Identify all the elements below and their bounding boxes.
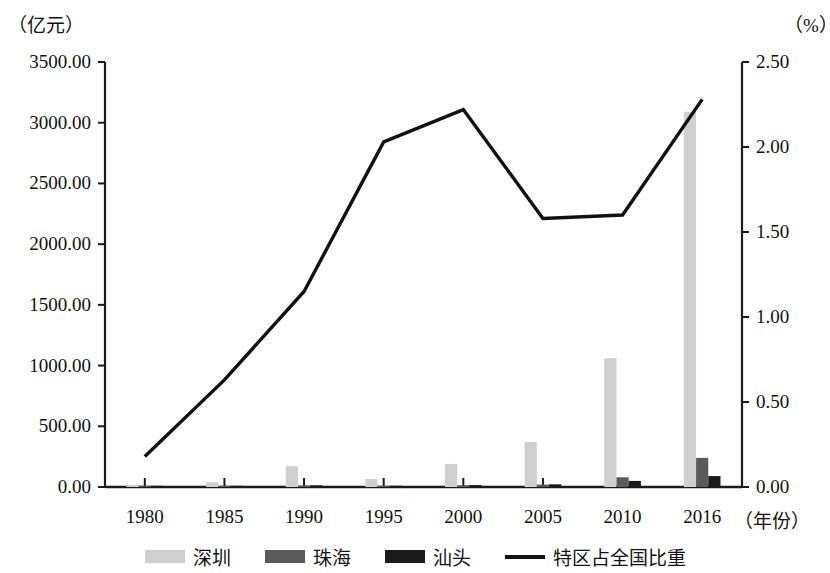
legend-label: 汕头 <box>433 543 471 570</box>
chart-container: （亿元） （%） 0.00500.001000.001500.002000.00… <box>0 0 830 573</box>
bar <box>708 476 720 487</box>
legend-label: 特区占全国比重 <box>553 543 686 570</box>
bar <box>629 481 641 487</box>
bar <box>525 442 537 487</box>
bar <box>365 479 377 487</box>
legend-item[interactable]: 汕头 <box>385 543 471 570</box>
bar <box>604 358 616 487</box>
bar <box>310 485 322 487</box>
bar <box>549 484 561 487</box>
legend-line-swatch <box>505 555 545 559</box>
bar <box>616 477 628 487</box>
bar <box>469 485 481 487</box>
legend-color-swatch <box>385 550 425 563</box>
bar <box>457 485 469 487</box>
legend-item[interactable]: 特区占全国比重 <box>505 543 686 570</box>
legend-label: 珠海 <box>313 543 351 570</box>
bar <box>298 486 310 487</box>
bar <box>218 486 230 487</box>
legend-item[interactable]: 珠海 <box>265 543 351 570</box>
legend-label: 深圳 <box>193 543 231 570</box>
plot-area <box>0 0 830 573</box>
bar <box>445 464 457 487</box>
bar <box>537 485 549 487</box>
bar <box>206 482 218 487</box>
legend-item[interactable]: 深圳 <box>145 543 231 570</box>
bar <box>286 466 298 487</box>
bar <box>378 486 390 487</box>
line-series <box>145 99 702 456</box>
bar <box>231 486 243 487</box>
bar <box>139 486 151 487</box>
bar <box>696 458 708 487</box>
legend-color-swatch <box>265 550 305 563</box>
bar <box>126 486 138 487</box>
bar <box>390 486 402 487</box>
legend-color-swatch <box>145 550 185 563</box>
chart-legend: 深圳珠海汕头特区占全国比重 <box>0 543 830 570</box>
bar <box>151 486 163 487</box>
bar <box>684 112 696 487</box>
